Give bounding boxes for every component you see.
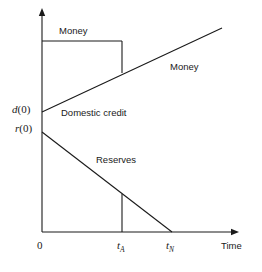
reserves-label: Reserves — [96, 155, 136, 165]
y-axis-arrowhead — [39, 8, 45, 16]
r-paren: (0) — [19, 122, 32, 134]
t-subscript-n: N — [169, 245, 174, 254]
money-step-line — [42, 41, 122, 73]
economics-figure: Money Money Domestic credit Reserves d(0… — [0, 0, 262, 272]
domestic-credit-label: Domestic credit — [61, 108, 126, 118]
t-subscript-a: A — [120, 245, 125, 254]
x-axis-arrowhead — [231, 229, 239, 235]
y-tick-label-r0: r(0) — [15, 123, 32, 134]
y-tick-label-d0: d(0) — [12, 104, 30, 115]
money-right-label: Money — [170, 62, 199, 72]
money-top-label: Money — [59, 26, 88, 36]
reserves-line — [42, 132, 172, 232]
y-axis — [39, 8, 45, 232]
x-tick-label-tn: tN — [166, 240, 174, 254]
x-axis-title: Time — [221, 241, 242, 251]
x-axis — [42, 229, 239, 235]
d-paren: (0) — [18, 103, 31, 115]
origin-label: 0 — [37, 240, 43, 251]
x-tick-label-ta: tA — [117, 240, 125, 254]
figure-canvas — [0, 0, 262, 272]
